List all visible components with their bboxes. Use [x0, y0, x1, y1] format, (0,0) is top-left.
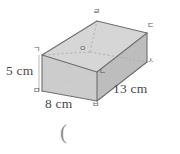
vertex-label-bottom-back-right: ㅅ	[147, 57, 154, 65]
vertex-label-bottom-front-left: ㅁ	[33, 87, 40, 95]
depth-dimension-label: 13 cm	[113, 81, 147, 97]
vertex-label-bottom-front-right: ㅂ	[92, 101, 99, 109]
vertex-label-top-front-right: ㄴ	[99, 68, 106, 76]
vertex-label-top-back-left: ㄹ	[93, 8, 100, 16]
cuboid-figure: 5 cm 8 cm 13 cm ㄱ ㄹ ㄷ ㅇ ㄴ ㅅ ㅁ ㅂ (	[0, 0, 180, 154]
vertex-label-center-hidden: ㅇ	[79, 45, 86, 53]
vertex-label-top-front-left: ㄱ	[33, 46, 40, 54]
answer-parenthesis: (	[60, 122, 67, 143]
height-dimension-label: 5 cm	[6, 63, 33, 79]
vertex-label-top-back-right: ㄷ	[147, 22, 154, 30]
width-dimension-label: 8 cm	[45, 96, 72, 112]
